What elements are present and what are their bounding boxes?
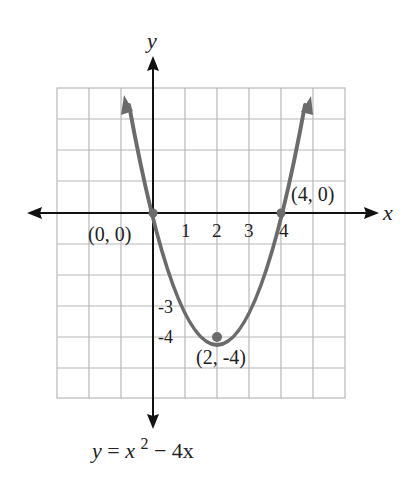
x-tick-4: 4 bbox=[279, 220, 289, 241]
y-axis-label: y bbox=[145, 28, 157, 53]
label-vertex: (2, -4) bbox=[196, 346, 246, 369]
equation-base: x bbox=[124, 438, 135, 463]
y-tick-neg3: -3 bbox=[158, 297, 173, 317]
x-tick-3: 3 bbox=[244, 220, 254, 241]
point-4-0 bbox=[277, 209, 286, 218]
x-tick-1: 1 bbox=[181, 220, 191, 241]
label-4-0: (4, 0) bbox=[291, 183, 334, 206]
y-axis bbox=[147, 56, 159, 429]
x-axis-label: x bbox=[382, 200, 393, 225]
equation-label: y = x 2 − 4x bbox=[90, 429, 194, 463]
x-tick-2: 2 bbox=[212, 220, 222, 241]
equation-equals: = bbox=[107, 438, 119, 463]
x-axis-left-arrow-icon bbox=[27, 207, 42, 219]
equation-rest: − 4x bbox=[154, 438, 194, 463]
x-axis bbox=[27, 207, 379, 219]
parabola-graph: y x 1 2 3 4 -3 -4 (0, 0) (4, 0) (2, -4) … bbox=[0, 0, 419, 492]
y-axis-up-arrow-icon bbox=[147, 56, 159, 71]
equation-lhs: y bbox=[90, 438, 102, 463]
label-origin: (0, 0) bbox=[88, 223, 131, 246]
x-axis-right-arrow-icon bbox=[364, 207, 379, 219]
y-tick-neg4: -4 bbox=[158, 327, 173, 347]
point-vertex bbox=[212, 332, 222, 342]
equation-exponent: 2 bbox=[140, 435, 148, 452]
curve-right-arrow-icon bbox=[301, 96, 313, 115]
y-axis-down-arrow-icon bbox=[147, 414, 159, 429]
point-origin bbox=[149, 209, 158, 218]
